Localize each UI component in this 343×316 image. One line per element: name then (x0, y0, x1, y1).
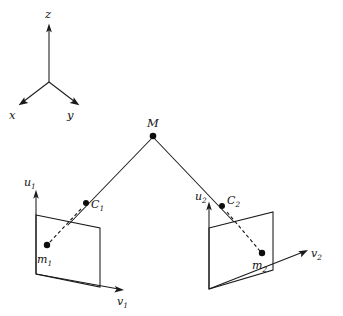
axis-y-label: y (66, 108, 74, 122)
camera-2-axis-u: u2 (195, 190, 212, 289)
scene-point-M-label: M (146, 116, 160, 130)
camera-2-dashed-ray (227, 212, 260, 251)
axis-x: x (9, 82, 49, 122)
ray-M-to-C1 (68, 137, 153, 225)
camera-2-center-label: C2 (227, 194, 240, 209)
axis-y: y (49, 82, 79, 122)
world-coordinate-frame: z x y (9, 7, 79, 122)
camera-2-center-dot (219, 203, 225, 209)
camera-1-image-point: m1 (37, 242, 52, 268)
camera-1-dashed-ray (49, 209, 81, 243)
camera-2-image-point-dot (259, 250, 265, 256)
camera-2-image-point: m2 (252, 250, 267, 274)
axis-x-shaft (22, 82, 49, 103)
camera-1-axis-v-label: v1 (117, 295, 128, 310)
axis-z-label: z (44, 7, 52, 21)
camera-2-group: u2 v2 C2 (195, 190, 322, 289)
camera-1-center: C1 (83, 198, 104, 213)
camera-1-group: u1 v1 C1 (24, 176, 128, 310)
ray-M-to-C2 (153, 137, 234, 222)
axis-x-label: x (9, 108, 16, 122)
stereo-geometry-figure: z x y M (0, 0, 343, 316)
camera-2-center: C2 (219, 194, 240, 209)
axis-y-shaft (49, 82, 76, 103)
camera-2-image-point-label: m2 (252, 259, 267, 274)
stereo-diagram-canvas: z x y M (0, 0, 343, 316)
camera-1-image-point-dot (44, 242, 50, 248)
camera-1-axis-v: v1 (36, 274, 128, 310)
camera-1-axis-u-label: u1 (24, 176, 36, 191)
camera-1-image-point-label: m1 (37, 253, 52, 268)
camera-1-axis-v-arrowhead (114, 286, 124, 292)
camera-2-axis-v-label: v2 (311, 247, 322, 262)
scene-point-M: M (146, 116, 160, 139)
camera-1-axis-v-shaft (36, 274, 119, 289)
scene-point-M-dot (150, 133, 157, 140)
camera-1-center-dot (83, 200, 89, 206)
camera-1-center-label: C1 (91, 198, 104, 213)
axis-z: z (44, 7, 52, 83)
